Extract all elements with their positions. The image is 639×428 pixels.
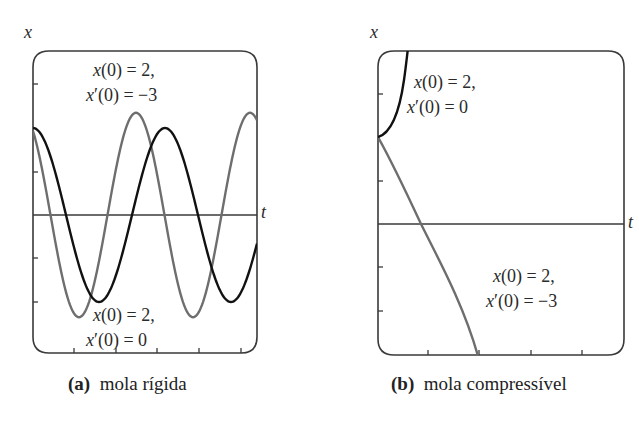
panel-b-y-axis-label: x [370,22,378,43]
panel-a-annotation-bottom: x(0) = 2, x′(0) = 0 [86,303,155,353]
panel-b-curve-v0-minus3 [378,137,478,356]
panel-a-y-axis-label: x [24,22,32,43]
panel-b-caption-letter: (b) [391,373,414,394]
panel-b-curve-v0-zero [378,48,408,137]
panel-a-caption-text: mola rígida [100,373,187,394]
panel-b-annotation-top: x(0) = 2, x′(0) = 0 [407,70,476,120]
panel-b-annotation-bottom: x(0) = 2, x′(0) = −3 [486,264,557,314]
panel-b-caption-text: mola compressível [424,373,567,394]
panel-b-x-axis-label: t [628,212,633,233]
panel-a-caption-letter: (a) [68,373,90,394]
panel-b-caption: (b) mola compressível [391,373,567,395]
panel-a-x-axis-label: t [261,202,266,223]
figure: x t x(0) = 2, x′(0) = −3 x(0) = 2, x′(0)… [0,0,639,428]
panel-a-caption: (a) mola rígida [68,373,187,395]
panel-a-annotation-top: x(0) = 2, x′(0) = −3 [86,58,157,108]
